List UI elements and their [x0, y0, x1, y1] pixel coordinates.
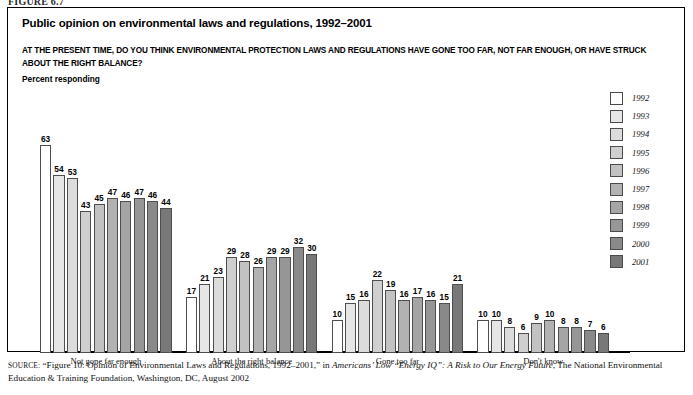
bar[interactable]: [293, 247, 304, 353]
bar[interactable]: [80, 211, 91, 353]
bar[interactable]: [598, 333, 609, 353]
legend-item-label: 2000: [632, 239, 649, 249]
bar-item[interactable]: 23: [213, 103, 224, 353]
bar-value-label: 8: [561, 317, 566, 326]
bar[interactable]: [279, 257, 290, 353]
bar[interactable]: [160, 208, 171, 353]
bar-item[interactable]: 53: [67, 103, 78, 353]
page-title: Public opinion on environmental laws and…: [22, 17, 372, 29]
bar-item[interactable]: 10: [491, 103, 502, 353]
bar-item[interactable]: 22: [372, 103, 383, 353]
bar[interactable]: [134, 198, 145, 353]
bar[interactable]: [199, 284, 210, 353]
bar-value-label: 8: [507, 317, 512, 326]
bar-item[interactable]: 47: [134, 103, 145, 353]
bar[interactable]: [584, 330, 595, 353]
bar-item[interactable]: 46: [120, 103, 131, 353]
legend-item-label: 1993: [632, 111, 649, 121]
bar[interactable]: [491, 320, 502, 353]
legend-item-label: 1996: [632, 166, 649, 176]
bar-item[interactable]: 16: [358, 103, 369, 353]
bar-value-label: 15: [346, 293, 355, 302]
bar-value-label: 16: [359, 290, 368, 299]
bar-item[interactable]: 29: [266, 103, 277, 353]
bar-item[interactable]: 8: [571, 103, 582, 353]
bar-value-label: 6: [601, 323, 606, 332]
legend-item-label: 1998: [632, 202, 649, 212]
bar[interactable]: [531, 323, 542, 353]
bar[interactable]: [120, 201, 131, 353]
bar-item[interactable]: 29: [279, 103, 290, 353]
bar-item[interactable]: 63: [40, 103, 51, 353]
bar-item[interactable]: 9: [531, 103, 542, 353]
bar[interactable]: [412, 297, 423, 353]
bar-item[interactable]: 10: [544, 103, 555, 353]
bar[interactable]: [147, 201, 158, 353]
bar-value-label: 30: [307, 244, 316, 253]
bar-item[interactable]: 44: [160, 103, 171, 353]
bar[interactable]: [398, 300, 409, 353]
bar[interactable]: [266, 257, 277, 353]
bar-item[interactable]: 32: [293, 103, 304, 353]
bar[interactable]: [67, 178, 78, 353]
bar[interactable]: [94, 204, 105, 353]
bar-item[interactable]: 46: [147, 103, 158, 353]
bar-value-label: 19: [386, 280, 395, 289]
bar-item[interactable]: 19: [385, 103, 396, 353]
bar[interactable]: [332, 320, 343, 353]
bar-item[interactable]: 21: [452, 103, 463, 353]
bar[interactable]: [439, 303, 450, 353]
bar-value-label: 22: [373, 270, 382, 279]
bar[interactable]: [372, 280, 383, 353]
bar[interactable]: [518, 333, 529, 353]
bar-item[interactable]: 30: [306, 103, 317, 353]
bar-item[interactable]: 54: [53, 103, 64, 353]
bar-item[interactable]: 45: [94, 103, 105, 353]
bar[interactable]: [452, 284, 463, 353]
bar-item[interactable]: 17: [186, 103, 197, 353]
bar-item[interactable]: 29: [226, 103, 237, 353]
bar[interactable]: [213, 277, 224, 353]
bar-value-label: 46: [121, 191, 130, 200]
bar[interactable]: [226, 257, 237, 353]
bar[interactable]: [53, 175, 64, 353]
bar-item[interactable]: 6: [518, 103, 529, 353]
bar[interactable]: [345, 303, 356, 353]
bar-item[interactable]: 21: [199, 103, 210, 353]
bar-value-label: 44: [161, 198, 170, 207]
bar-item[interactable]: 16: [425, 103, 436, 353]
bar-item[interactable]: 28: [239, 103, 250, 353]
bar-item[interactable]: 6: [598, 103, 609, 353]
bar-item[interactable]: 7: [584, 103, 595, 353]
bar[interactable]: [571, 327, 582, 353]
bar-chart-plot: 6354534345474647464417212329282629293230…: [40, 103, 630, 353]
bar[interactable]: [306, 254, 317, 353]
legend-item-label: 1994: [632, 129, 649, 139]
legend-item-label: 1997: [632, 184, 649, 194]
bar[interactable]: [253, 267, 264, 353]
bar-item[interactable]: 15: [345, 103, 356, 353]
bar[interactable]: [40, 145, 51, 353]
bar[interactable]: [358, 300, 369, 353]
bar-item[interactable]: 15: [439, 103, 450, 353]
bar[interactable]: [239, 261, 250, 353]
bar-item[interactable]: 10: [332, 103, 343, 353]
bar[interactable]: [504, 327, 515, 353]
bar-item[interactable]: 47: [107, 103, 118, 353]
bar[interactable]: [544, 320, 555, 353]
bar[interactable]: [107, 198, 118, 353]
bar-item[interactable]: 26: [253, 103, 264, 353]
bar-item[interactable]: 8: [504, 103, 515, 353]
bar[interactable]: [477, 320, 488, 353]
bar[interactable]: [385, 290, 396, 353]
bar[interactable]: [425, 300, 436, 353]
bar[interactable]: [558, 327, 569, 353]
bar-item[interactable]: 8: [558, 103, 569, 353]
bar-item[interactable]: 17: [412, 103, 423, 353]
bar-value-label: 29: [267, 247, 276, 256]
bar-item[interactable]: 16: [398, 103, 409, 353]
bar-value-label: 6: [521, 323, 526, 332]
bar-item[interactable]: 43: [80, 103, 91, 353]
bar[interactable]: [186, 297, 197, 353]
bar-item[interactable]: 10: [477, 103, 488, 353]
